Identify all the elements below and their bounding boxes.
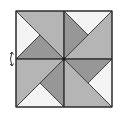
pinwheel-diagram (0, 0, 117, 116)
center-point (63, 58, 66, 61)
rotate-arrow-icon (10, 52, 14, 66)
